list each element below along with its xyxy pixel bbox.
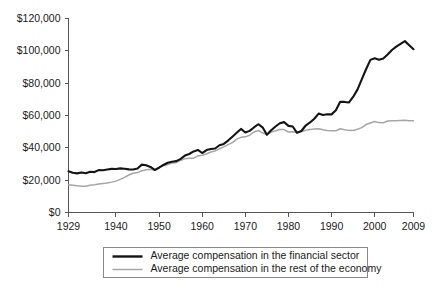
- compensation-line-chart: $0$20,000$40,000$60,000$80,000$100,000$1…: [0, 0, 432, 293]
- chart-legend: Average compensation in the financial se…: [104, 248, 383, 278]
- legend-label: Average compensation in the rest of the …: [151, 262, 383, 274]
- x-tick-label: 1940: [104, 220, 128, 232]
- x-tick-label: 1990: [320, 220, 344, 232]
- x-tick-label: 2000: [363, 220, 387, 232]
- x-tick-label: 1950: [147, 220, 171, 232]
- chart-canvas: $0$20,000$40,000$60,000$80,000$100,000$1…: [0, 0, 432, 293]
- y-tick-label: $120,000: [17, 12, 61, 24]
- legend-label: Average compensation in the financial se…: [151, 249, 360, 261]
- x-axis: 192919401950196019701980199020002009: [57, 213, 426, 232]
- x-tick-label: 1929: [57, 220, 81, 232]
- y-tick-label: $60,000: [23, 109, 61, 121]
- y-tick-label: $0: [49, 206, 61, 218]
- x-tick-label: 1970: [234, 220, 258, 232]
- y-tick-label: $80,000: [23, 77, 61, 89]
- y-tick-label: $20,000: [23, 174, 61, 186]
- x-tick-label: 1960: [191, 220, 215, 232]
- y-tick-label: $100,000: [17, 44, 61, 56]
- y-tick-label: $40,000: [23, 141, 61, 153]
- data-series-group: [69, 41, 414, 186]
- series-line-financial-sector: [69, 41, 414, 173]
- y-axis: $0$20,000$40,000$60,000$80,000$100,000$1…: [17, 12, 69, 218]
- x-tick-label: 1980: [277, 220, 301, 232]
- x-tick-label: 2009: [402, 220, 426, 232]
